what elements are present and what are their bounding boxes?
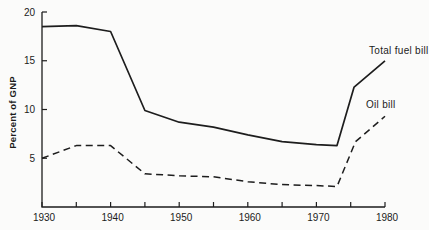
series-label-total-fuel-bill: Total fuel bill bbox=[369, 45, 429, 56]
chart-canvas: 5101520193019401950196019701980 bbox=[0, 0, 429, 230]
x-tick-label-1930: 1930 bbox=[33, 212, 56, 223]
x-tick-label-1940: 1940 bbox=[101, 212, 124, 223]
x-tick-label-1960: 1960 bbox=[239, 212, 262, 223]
y-tick-label-10: 10 bbox=[24, 104, 36, 115]
series-label-oil-bill: Oil bill bbox=[366, 99, 396, 110]
axes-line bbox=[42, 12, 385, 207]
x-tick-label-1950: 1950 bbox=[170, 212, 193, 223]
series-total-fuel-bill-line bbox=[42, 26, 385, 146]
fuel-bill-chart-figure: Percent of GNP 5101520193019401950196019… bbox=[0, 0, 429, 230]
y-tick-label-15: 15 bbox=[24, 55, 36, 66]
x-tick-label-1970: 1970 bbox=[307, 212, 330, 223]
y-tick-label-5: 5 bbox=[29, 153, 35, 164]
y-tick-label-20: 20 bbox=[24, 7, 36, 18]
x-tick-label-1980: 1980 bbox=[376, 212, 399, 223]
